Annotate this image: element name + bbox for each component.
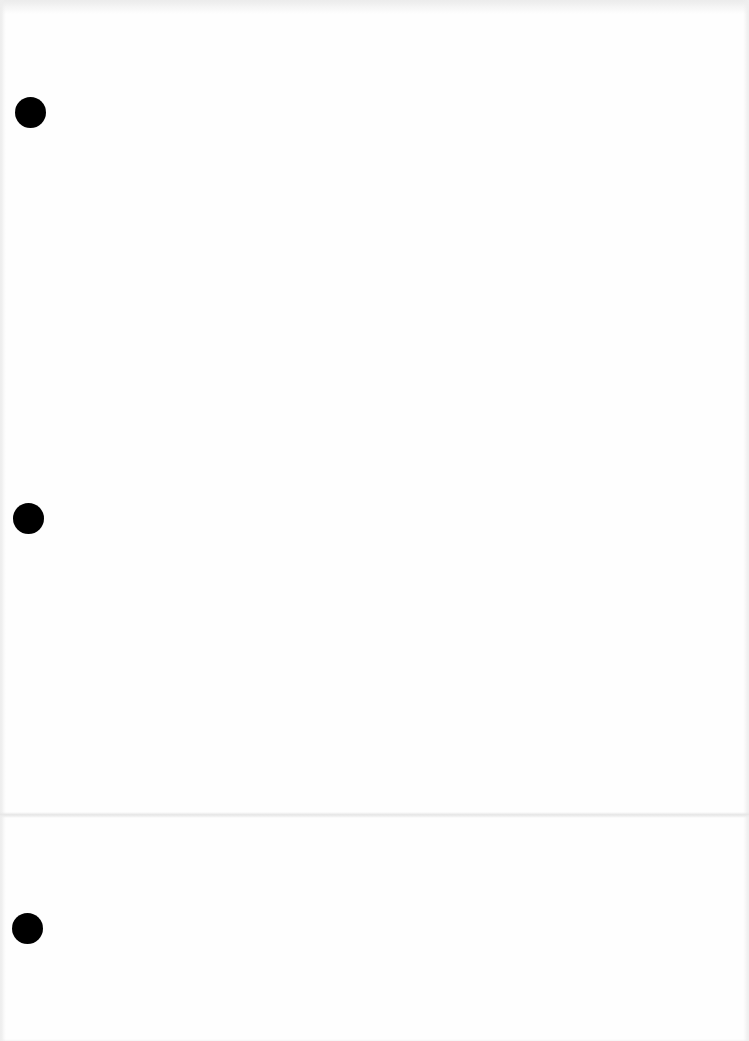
punch-hole-top-icon: [15, 97, 46, 128]
paper-right-edge-shadow: [743, 0, 749, 1041]
paper-sheet: [0, 0, 749, 1041]
punch-hole-middle-icon: [13, 503, 44, 534]
punch-hole-bottom-icon: [12, 913, 43, 944]
paper-left-edge-shadow: [0, 0, 6, 1041]
paper-top-edge-shadow: [0, 0, 749, 14]
page-content-area: [60, 40, 700, 1000]
